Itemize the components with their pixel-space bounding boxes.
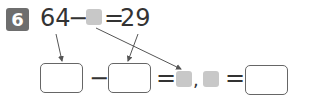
answer-equals-sign-1: = bbox=[156, 64, 176, 92]
answer-minus-sign: − bbox=[89, 64, 109, 92]
answer-box-difference[interactable] bbox=[108, 63, 151, 93]
unknown-placeholder-result bbox=[176, 71, 192, 87]
comma: , bbox=[193, 66, 199, 94]
unknown-placeholder-answer bbox=[203, 71, 219, 87]
answer-box-minuend[interactable] bbox=[40, 63, 83, 93]
answer-box-final[interactable] bbox=[245, 65, 288, 95]
answer-equals-sign-2: = bbox=[225, 64, 245, 92]
